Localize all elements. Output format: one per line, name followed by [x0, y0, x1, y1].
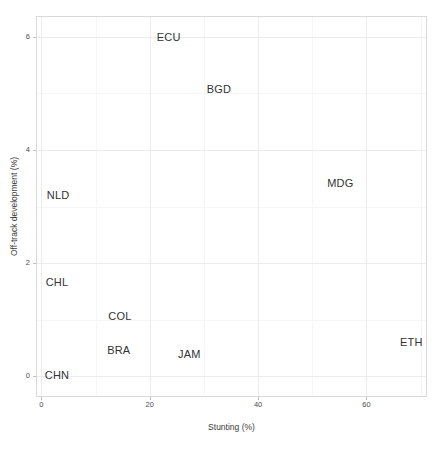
- data-point-label: BRA: [107, 344, 130, 355]
- data-point-label: CHL: [46, 276, 69, 287]
- gridline-major-vertical: [366, 17, 367, 396]
- gridline-major-horizontal: [37, 263, 426, 264]
- x-tick-label: 0: [39, 401, 43, 409]
- data-point-label: ETH: [400, 337, 423, 348]
- plot-panel: ECUBGDMDGNLDCHLCOLBRAJAMETHCHN: [36, 16, 427, 397]
- gridline-major-vertical: [41, 17, 42, 396]
- y-tick-mark: [33, 37, 36, 38]
- data-point-label: NLD: [47, 189, 70, 200]
- gridline-minor-horizontal: [37, 320, 426, 321]
- x-axis-title: Stunting (%): [36, 422, 427, 432]
- y-tick-mark: [33, 150, 36, 151]
- y-tick-mark: [33, 376, 36, 377]
- y-tick-label: 0: [14, 372, 30, 380]
- gridline-minor-horizontal: [37, 207, 426, 208]
- gridline-major-vertical: [258, 17, 259, 396]
- data-point-label: JAM: [178, 349, 201, 360]
- x-tick-label: 40: [254, 401, 262, 409]
- gridline-major-horizontal: [37, 37, 426, 38]
- x-tick-label: 20: [146, 401, 154, 409]
- y-tick-mark: [33, 263, 36, 264]
- data-point-label: BGD: [207, 84, 231, 95]
- data-point-label: CHN: [45, 369, 69, 380]
- gridline-major-horizontal: [37, 150, 426, 151]
- x-tick-label: 60: [362, 401, 370, 409]
- gridline-major-horizontal: [37, 376, 426, 377]
- y-tick-label: 4: [14, 146, 30, 154]
- gridline-major-vertical: [150, 17, 151, 396]
- data-point-label: MDG: [327, 178, 353, 189]
- gridline-minor-horizontal: [37, 93, 426, 94]
- y-axis-title: Off-track development (%): [9, 16, 21, 397]
- data-point-label: COL: [108, 310, 131, 321]
- data-point-label: ECU: [157, 31, 181, 42]
- y-tick-label: 2: [14, 259, 30, 267]
- scatter-plot-figure: ECUBGDMDGNLDCHLCOLBRAJAMETHCHN Stunting …: [0, 0, 448, 450]
- y-tick-label: 6: [14, 33, 30, 41]
